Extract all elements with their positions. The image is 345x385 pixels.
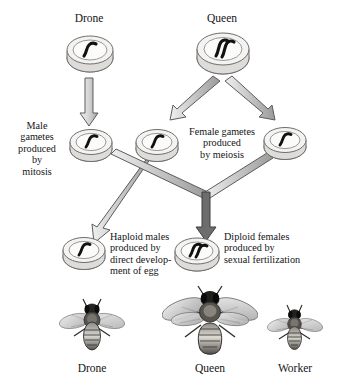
parent-drone-label: Drone	[58, 12, 120, 25]
caste-queen-label: Queen	[175, 362, 245, 375]
haplodiploidy-diagram: Drone Queen Male gametes produced by mit…	[0, 0, 345, 385]
female-gamete-left-cell	[133, 124, 181, 166]
parent-queen-cell	[193, 26, 253, 80]
arrow-queen-to-female-gamete-left	[170, 76, 220, 120]
parent-drone-cell	[63, 30, 117, 78]
arrow-drone-to-male-gamete	[80, 78, 98, 126]
caste-worker-label: Worker	[260, 362, 330, 375]
female-gamete-right-cell	[261, 122, 309, 164]
haploid-males-caption: Haploid males produced by direct develop…	[110, 231, 184, 277]
parent-queen-label: Queen	[191, 12, 253, 25]
male-gamete-cell	[67, 124, 115, 166]
caste-drone-label: Drone	[57, 362, 127, 375]
haploid-males-cell	[60, 232, 108, 274]
male-gametes-caption: Male gametes produced by mitosis	[8, 120, 66, 177]
arrow-queen-to-female-gamete-right	[225, 76, 275, 120]
female-gametes-caption: Female gametes produced by meiosis	[176, 126, 268, 160]
caste-worker-illustration	[266, 303, 324, 353]
diploid-females-caption: Diploid females produced by sexual ferti…	[224, 231, 336, 265]
caste-queen-illustration	[162, 283, 258, 359]
caste-drone-illustration	[58, 296, 126, 352]
